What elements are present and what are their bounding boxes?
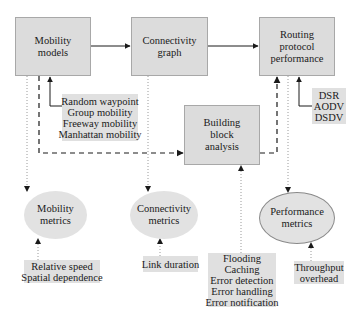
connectivity-graph-box: Connectivity graph — [131, 17, 208, 76]
node-label-line: metrics — [40, 215, 71, 227]
note-line: Manhattan mobility — [58, 129, 141, 140]
node-label-line: Connectivity — [142, 35, 196, 47]
note-line: Caching — [225, 264, 260, 275]
node-label-line: Routing — [280, 29, 314, 41]
note-line: Link duration — [142, 259, 199, 270]
note-line: Throughput — [294, 262, 344, 273]
node-label-line: metrics — [282, 218, 313, 230]
note-line: Error notification — [205, 297, 278, 308]
node-label-line: Performance — [270, 206, 324, 218]
note-line: Spatial dependence — [21, 272, 102, 283]
performance-metrics-ellipse: Performance metrics — [259, 192, 335, 244]
protocols-note: DSR AODV DSDV — [312, 88, 346, 124]
note-line: Error detection — [210, 275, 273, 286]
node-label-line: graph — [158, 47, 182, 59]
edge-model-types-to-mobility-models — [50, 77, 62, 106]
node-label-line: Connectivity — [137, 203, 191, 215]
node-label-line: metrics — [149, 215, 180, 227]
mobility-model-types-note: Random waypoint Group mobility Freeway m… — [62, 94, 138, 141]
edge-building-block-to-routing — [260, 77, 277, 153]
node-label-line: protocol — [280, 41, 315, 53]
note-line: AODV — [314, 101, 344, 112]
performance-metric-types-note: Throughput overhead — [294, 261, 344, 284]
note-line: Relative speed — [31, 261, 93, 272]
mobility-metric-types-note: Relative speed Spatial dependence — [24, 260, 100, 283]
note-line: overhead — [300, 273, 338, 284]
node-label-line: analysis — [205, 141, 239, 153]
note-line: Freeway mobility — [63, 118, 137, 129]
note-line: Random waypoint — [61, 96, 138, 107]
routing-performance-box: Routing protocol performance — [259, 17, 335, 76]
mobility-models-box: Mobility models — [15, 17, 91, 76]
node-label-line: Building — [204, 117, 241, 129]
note-line: Error handling — [211, 286, 273, 297]
node-label-line: performance — [270, 53, 323, 65]
building-block-analysis-box: Building block analysis — [184, 105, 260, 165]
connectivity-metrics-ellipse: Connectivity metrics — [130, 191, 198, 239]
note-line: Group mobility — [67, 107, 132, 118]
node-label-line: Mobility — [37, 203, 74, 215]
note-line: DSDV — [315, 112, 344, 123]
node-label-line: block — [210, 129, 233, 141]
note-line: DSR — [319, 90, 339, 101]
mobility-metrics-ellipse: Mobility metrics — [24, 191, 87, 239]
note-line: Flooding — [223, 253, 261, 264]
edge-protocols-to-routing — [299, 77, 312, 106]
node-label-line: Mobility — [35, 35, 72, 47]
building-blocks-note: Flooding Caching Error detection Error h… — [208, 253, 276, 307]
node-label-line: models — [38, 47, 68, 59]
connectivity-metric-types-note: Link duration — [143, 256, 198, 272]
